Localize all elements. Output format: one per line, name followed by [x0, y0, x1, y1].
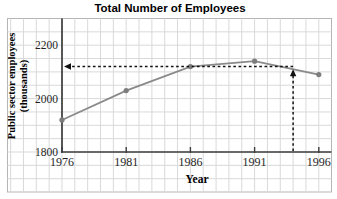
y-tick-label: 2200 [35, 39, 58, 51]
y-axis-title-line1: Public sector employees [6, 33, 17, 140]
x-tick-label: 1991 [243, 155, 267, 169]
chart-title: Total Number of Employees [94, 2, 245, 14]
y-axis-title-line2: (thousands) [18, 59, 30, 112]
y-tick-label: 1800 [35, 146, 58, 158]
x-tick-label: 1981 [114, 155, 138, 169]
data-point [124, 88, 129, 93]
data-point [59, 117, 64, 122]
employees-line-chart: 19761981198619911996180020002200 Total N… [0, 0, 337, 199]
x-tick-label: 1996 [307, 155, 331, 169]
x-axis-title: Year [186, 173, 209, 185]
x-tick-label: 1986 [178, 155, 202, 169]
data-point [252, 59, 257, 64]
data-point [316, 72, 321, 77]
employees-line-chart-figure: 19761981198619911996180020002200 Total N… [0, 0, 337, 199]
y-tick-label: 2000 [35, 93, 58, 105]
